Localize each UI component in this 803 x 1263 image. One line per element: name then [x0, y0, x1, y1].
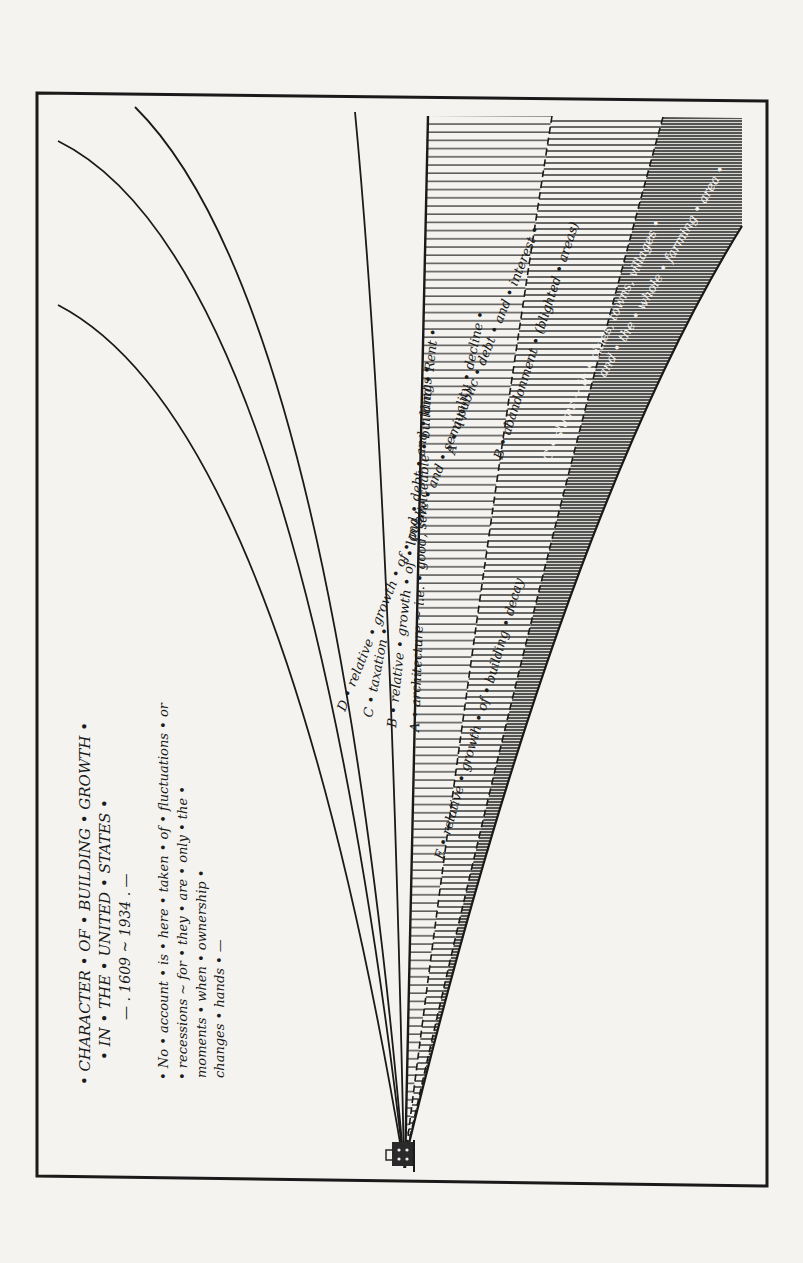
title-line-3: — . 1609 ~ 1934 . —	[117, 873, 133, 1020]
note-line-3: moments • when • ownership •	[194, 870, 209, 1078]
building-growth-diagram: D • relative • growth • of • public • an…	[0, 0, 803, 1263]
note-line-1: • No • account • is • here • taken • of …	[156, 702, 171, 1080]
note-line-2: • recessions ~ for • they • are • only •…	[175, 786, 190, 1080]
title-line-1: • CHARACTER • OF • BUILDING • GROWTH •	[76, 722, 94, 1085]
title-line-2: • IN • THE • UNITED • STATES •	[96, 799, 114, 1060]
note-line-4: changes • hands • —	[212, 939, 227, 1078]
house-icon	[386, 1140, 414, 1172]
